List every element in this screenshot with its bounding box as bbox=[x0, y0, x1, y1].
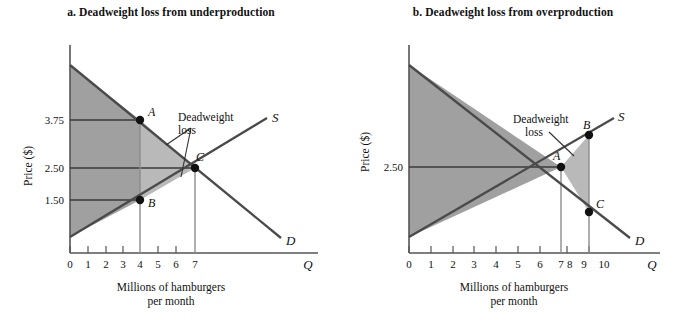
panel-b-x-axis-symbol: Q bbox=[647, 257, 657, 272]
panel-b-xtick-1: 1 bbox=[428, 258, 434, 270]
panel-a-xtick-1: 1 bbox=[85, 258, 91, 270]
panel-b-xtick-0: 0 bbox=[406, 258, 412, 270]
panel-b-x-axis-title-line1: Millions of hamburgers bbox=[460, 281, 569, 294]
panel-a-xtick-3: 3 bbox=[120, 258, 126, 270]
panel-a-label-a: A bbox=[147, 105, 156, 119]
panel-b-surplus-region bbox=[409, 65, 561, 237]
panel-a-x-axis-symbol: Q bbox=[303, 257, 313, 272]
panel-b-x-axis-title-line2: per month bbox=[491, 295, 538, 308]
panel-b-demand-label: D bbox=[634, 233, 645, 248]
panel-a-annotation-line2: loss bbox=[178, 124, 196, 136]
panel-b-label-a: A bbox=[552, 149, 561, 163]
panel-b-ytick-250: 2.50 bbox=[384, 161, 404, 173]
panel-b-point-c bbox=[585, 208, 593, 216]
panel-b-xtick-2: 2 bbox=[450, 258, 456, 270]
panel-b-point-a bbox=[557, 163, 565, 171]
panel-a-underproduction: a. Deadweight loss from underproduction bbox=[0, 0, 342, 322]
panel-b-x-ticks bbox=[409, 246, 589, 253]
panel-a-point-b bbox=[136, 196, 144, 204]
panel-a-x-ticks bbox=[70, 246, 176, 253]
panel-b-overproduction: b. Deadweight loss from overproduction bbox=[342, 0, 684, 322]
panel-a-ytick-150: 1.50 bbox=[45, 194, 65, 206]
panel-a-point-c bbox=[191, 164, 199, 172]
panel-a-xtick-7: 7 bbox=[192, 258, 198, 270]
panel-b-xtick-4: 4 bbox=[493, 258, 499, 270]
panel-b-annotation-line2: loss bbox=[525, 126, 543, 138]
panel-b-point-b bbox=[585, 131, 593, 139]
panel-b-label-c: C bbox=[596, 197, 605, 211]
panel-a-y-axis-title: Price ($) bbox=[22, 146, 35, 186]
panel-a-label-b: B bbox=[148, 196, 156, 210]
panel-a-point-a bbox=[136, 116, 144, 124]
panel-a-demand-label: D bbox=[285, 233, 296, 248]
panel-b-xtick-6: 6 bbox=[537, 258, 543, 270]
panel-a-supply-label: S bbox=[272, 110, 279, 125]
panel-b-annotation-line1: Deadweight bbox=[513, 113, 569, 126]
panel-b-xtick-5: 5 bbox=[515, 258, 521, 270]
panel-b-chart: A B C S D Deadweight loss 2.50 0 1 2 3 4… bbox=[342, 0, 684, 322]
panel-a-x-axis-title-line1: Millions of hamburgers bbox=[117, 281, 226, 294]
panel-a-annotation-line1: Deadweight bbox=[178, 111, 234, 124]
panel-a-ytick-250: 2.50 bbox=[45, 162, 65, 174]
panel-b-xtick-8: 8 bbox=[567, 258, 573, 270]
panel-a-label-c: C bbox=[196, 150, 205, 164]
panel-a-xtick-5: 5 bbox=[155, 258, 161, 270]
panel-b-xtick-9: 9 bbox=[581, 258, 587, 270]
panel-b-y-axis-title: Price ($) bbox=[359, 132, 372, 172]
panel-a-x-axis-title-line2: per month bbox=[148, 295, 195, 308]
panel-a-xtick-0: 0 bbox=[67, 258, 73, 270]
figure-container: a. Deadweight loss from underproduction bbox=[0, 0, 685, 322]
panel-b-xtick-10: 10 bbox=[599, 258, 611, 270]
panel-b-supply-label: S bbox=[618, 109, 625, 124]
panel-b-xtick-7: 7 bbox=[558, 258, 564, 270]
panel-b-xtick-3: 3 bbox=[471, 258, 477, 270]
panel-a-xtick-6: 6 bbox=[173, 258, 179, 270]
panel-a-xtick-4: 4 bbox=[137, 258, 143, 270]
panel-b-label-b: B bbox=[583, 118, 591, 132]
panel-a-xtick-2: 2 bbox=[103, 258, 109, 270]
panel-a-ytick-375: 3.75 bbox=[45, 114, 65, 126]
panel-a-surplus-region bbox=[70, 65, 140, 237]
panel-a-chart: A B C S D Deadweight loss 3.75 2.50 1.50… bbox=[0, 0, 342, 322]
